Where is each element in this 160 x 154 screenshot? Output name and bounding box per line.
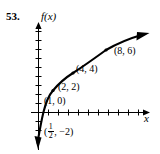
point-label-1-0: (1, 0) — [44, 96, 66, 106]
point-label-8-6: (8, 6) — [114, 46, 136, 56]
point-label-4-4: (4, 4) — [76, 64, 98, 74]
data-point-4-4 — [71, 71, 74, 74]
data-point-2-2 — [51, 89, 54, 92]
fraction-one-half: 12 — [48, 123, 54, 141]
paren-open: ( — [44, 126, 47, 137]
point-label-half-neg2: (12, −2) — [44, 124, 73, 142]
fraction-numerator: 1 — [48, 123, 54, 131]
y-axis-label: f(x) — [41, 11, 56, 22]
figure-container: 53. f(x) x (8, 6) (4, 4) (2, 2) (1, 0) (… — [0, 0, 160, 154]
curve-arrowhead-right — [137, 32, 150, 41]
y-axis-arrowhead — [35, 22, 41, 29]
curve-arrowhead-left — [35, 136, 42, 150]
fraction-denominator: 2 — [48, 131, 54, 140]
point-label-2-2: (2, 2) — [58, 82, 80, 92]
paren-close-with-value: , −2) — [54, 126, 73, 137]
data-point-8-6 — [104, 48, 107, 51]
plot-canvas — [0, 0, 160, 154]
problem-number: 53. — [6, 11, 20, 22]
x-axis-label: x — [144, 113, 149, 124]
